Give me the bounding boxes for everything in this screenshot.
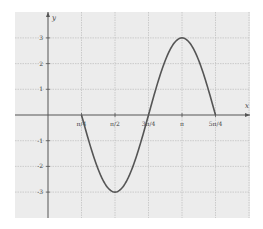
y-tick-label: -2 (37, 162, 43, 169)
x-tick-label: 3π/4 (142, 120, 156, 127)
x-tick-label: 5π/4 (209, 120, 223, 127)
y-tick-label: 2 (39, 60, 43, 67)
y-tick-label: 1 (39, 85, 43, 92)
x-tick-label: π/2 (110, 120, 120, 127)
x-tick-label: π (180, 120, 184, 127)
y-tick-label: 3 (39, 34, 43, 41)
chart: x y π/4π/23π/4π5π/4321-1-2-3 (0, 0, 263, 229)
y-tick-label: -3 (37, 188, 43, 195)
x-axis-label: x (245, 102, 249, 110)
y-tick-label: -1 (37, 137, 43, 144)
